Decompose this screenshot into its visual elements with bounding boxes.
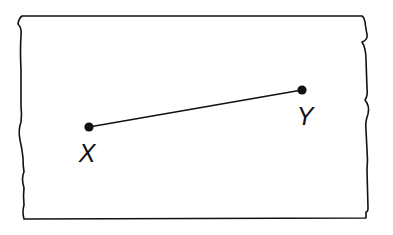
point-x-dot — [84, 122, 93, 131]
point-y-label: Y — [297, 104, 314, 129]
point-x-label: X — [79, 141, 96, 166]
point-y-dot — [297, 85, 306, 94]
diagram-svg — [0, 0, 393, 235]
paper-strip-outline — [18, 16, 369, 219]
diagram-canvas: X Y — [0, 0, 393, 235]
